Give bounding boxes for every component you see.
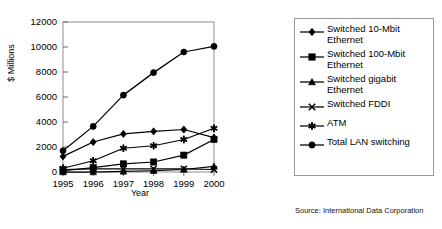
y-axis-tick-label: 0 <box>52 166 57 177</box>
plot-area: 0200040006000800010000120001995199619971… <box>0 0 225 205</box>
chart-screenshot: $ Millions Year 020004000600080001000012… <box>0 0 442 229</box>
data-point-marker <box>151 70 157 76</box>
y-axis-tick-label: 6000 <box>36 91 57 102</box>
legend-marker-glyph <box>309 28 315 36</box>
y-axis-tick-label: 2000 <box>36 141 57 152</box>
legend-item-label: Total LAN switching <box>325 137 410 148</box>
data-point-marker <box>181 126 187 133</box>
legend-item-label: Switched FDDI <box>325 99 390 110</box>
data-point-marker <box>211 43 217 49</box>
legend-item-label: Switched gigabit Ethernet <box>325 74 396 95</box>
x-axis-tick-label: 1995 <box>52 178 73 189</box>
y-axis-tick-label: 8000 <box>36 66 57 77</box>
x-axis-tick-label: 1996 <box>83 178 104 189</box>
legend-marker-star-icon <box>299 119 325 133</box>
legend-marker-glyph <box>309 54 315 60</box>
data-point-marker <box>90 165 96 171</box>
data-point-marker <box>60 148 66 154</box>
legend-item-label: ATM <box>325 118 346 129</box>
data-point-marker <box>120 130 126 137</box>
data-point-marker <box>120 92 126 98</box>
data-series <box>60 43 217 153</box>
legend-item[interactable]: Switched FDDI <box>295 99 433 114</box>
x-axis-tick-label: 1999 <box>173 178 194 189</box>
legend-marker-glyph <box>309 142 315 148</box>
x-axis-tick-label: 2000 <box>203 178 224 189</box>
series-line <box>63 46 214 150</box>
legend-item[interactable]: Switched 100-Mbit Ethernet <box>295 49 433 70</box>
legend-marker-triangle-icon <box>299 75 325 89</box>
legend-item[interactable]: Switched 10-Mbit Ethernet <box>295 24 433 45</box>
legend-item-label: Switched 10-Mbit Ethernet <box>325 24 400 45</box>
x-axis-tick-label: 1997 <box>113 178 134 189</box>
data-point-marker <box>211 125 217 132</box>
line-chart-figure: $ Millions Year 020004000600080001000012… <box>0 0 225 205</box>
legend-item[interactable]: Total LAN switching <box>295 137 433 152</box>
data-point-marker <box>151 159 157 165</box>
legend-item[interactable]: Switched gigabit Ethernet <box>295 74 433 95</box>
legend-marker-cross-icon <box>299 100 325 114</box>
legend-marker-square-icon <box>299 50 325 64</box>
data-point-marker <box>181 49 187 55</box>
series-line <box>63 140 214 171</box>
y-axis-tick-label: 4000 <box>36 116 57 127</box>
data-point-marker <box>90 138 96 145</box>
data-point-marker <box>181 152 187 158</box>
axes-frame <box>63 22 214 172</box>
legend-marker-diamond-icon <box>299 25 325 39</box>
series-line <box>63 130 214 157</box>
x-axis-tick-label: 1998 <box>143 178 164 189</box>
data-point-marker <box>151 128 157 135</box>
data-series <box>60 126 217 160</box>
legend-item-label: Switched 100-Mbit Ethernet <box>325 49 405 70</box>
data-point-marker <box>90 123 96 129</box>
legend-item[interactable]: ATM <box>295 118 433 133</box>
y-axis-tick-label: 10000 <box>31 41 57 52</box>
data-point-marker <box>120 161 126 167</box>
series-line <box>63 128 214 168</box>
chart-legend: Switched 10-Mbit EthernetSwitched 100-Mb… <box>294 18 434 176</box>
legend-marker-circle-icon <box>299 138 325 152</box>
y-axis-tick-label: 12000 <box>31 16 57 27</box>
source-attribution: Source: International Data Corporation <box>295 206 423 215</box>
